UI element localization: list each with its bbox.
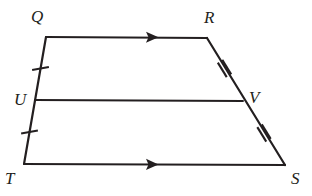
geometry-figure-container: Q R S T U V bbox=[0, 0, 312, 196]
vertex-label-U: U bbox=[14, 91, 26, 108]
tick-QU bbox=[32, 67, 49, 70]
tick-UT bbox=[21, 131, 38, 134]
segment-UV bbox=[35, 100, 243, 101]
vertex-label-Q: Q bbox=[31, 8, 43, 25]
vertex-label-V: V bbox=[249, 89, 259, 106]
segments-group bbox=[24, 37, 285, 165]
vertex-label-T: T bbox=[5, 170, 14, 187]
vertex-label-S: S bbox=[291, 170, 300, 187]
segment-QR bbox=[46, 37, 207, 38]
geometry-figure-canvas bbox=[0, 0, 312, 196]
vertex-label-R: R bbox=[204, 9, 214, 26]
